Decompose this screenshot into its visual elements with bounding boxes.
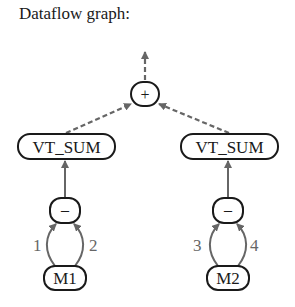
edge-m2-to-minus-3 (210, 224, 219, 266)
svg-text:M1: M1 (53, 269, 77, 288)
edge-m1-to-minus-2 (74, 224, 83, 266)
edge-vtsum-right-to-plus (159, 104, 229, 133)
node-m2: M2 (207, 266, 249, 290)
node-minus-right: – (213, 198, 243, 223)
node-plus: + (131, 82, 159, 106)
edge-label-3: 3 (193, 236, 202, 255)
svg-text:+: + (140, 86, 149, 103)
node-minus-left: – (50, 198, 80, 223)
svg-text:VT_SUM: VT_SUM (32, 138, 100, 157)
svg-text:M2: M2 (216, 269, 240, 288)
svg-text:–: – (60, 201, 70, 218)
edge-label-1: 1 (33, 236, 42, 255)
node-vt-sum-left: VT_SUM (18, 134, 115, 159)
svg-text:VT_SUM: VT_SUM (195, 138, 263, 157)
dataflow-graph: 1 2 3 4 + VT_SUM VT_SUM – – M1 M2 (0, 0, 295, 307)
svg-text:–: – (223, 201, 233, 218)
edge-vtsum-left-to-plus (66, 104, 131, 133)
edge-label-2: 2 (89, 236, 98, 255)
node-vt-sum-right: VT_SUM (181, 134, 278, 159)
edge-m1-to-minus-1 (47, 224, 56, 266)
node-m1: M1 (44, 266, 86, 290)
edge-m2-to-minus-4 (237, 224, 246, 266)
edge-label-4: 4 (250, 236, 259, 255)
